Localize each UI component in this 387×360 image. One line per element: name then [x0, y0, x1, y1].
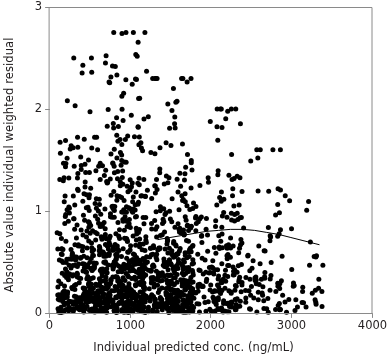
scatter-plot-canvas — [0, 0, 387, 360]
figure-container: Individual predicted conc. (ng/mL) Absol… — [0, 0, 387, 360]
y-axis-label-wrapper: Absolute value individual weighted resid… — [2, 330, 332, 346]
y-axis-label: Absolute value individual weighted resid… — [2, 0, 16, 330]
